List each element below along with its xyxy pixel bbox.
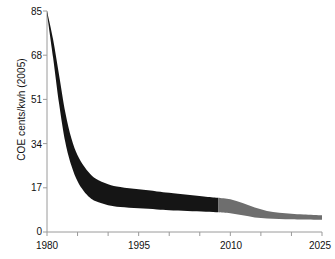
- y-axis-ticks: [43, 11, 47, 232]
- series-band-projected: [218, 198, 322, 220]
- chart-container: COE cents/kwh (2005) 85 68 51 34 17 0 19…: [0, 0, 335, 259]
- plot-area: [0, 0, 335, 259]
- x-axis-ticks: [47, 232, 322, 236]
- series-band-historical: [47, 11, 218, 212]
